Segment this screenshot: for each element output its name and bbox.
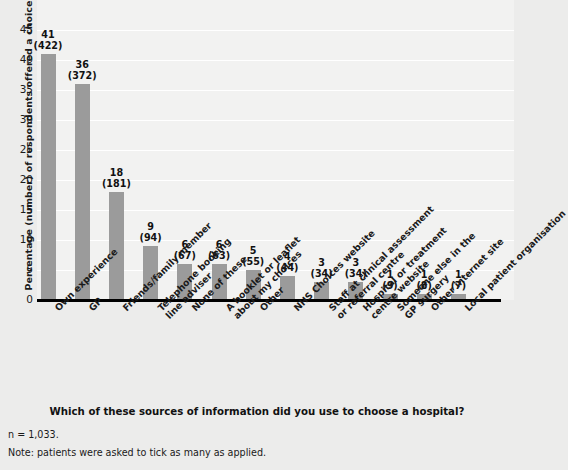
sample-size-note: n = 1,033. xyxy=(8,429,59,440)
methodology-note: Note: patients were asked to tick as man… xyxy=(8,447,266,458)
bar-value-label: 36(372) xyxy=(57,59,107,81)
bar-value-label: 18(181) xyxy=(91,167,141,189)
bar-value-label: 41(422) xyxy=(23,29,73,51)
chart-question-caption: Which of these sources of information di… xyxy=(0,406,514,417)
